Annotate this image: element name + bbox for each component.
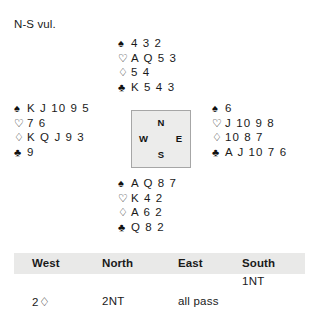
club-icon: ♣ bbox=[212, 145, 225, 160]
club-icon: ♣ bbox=[14, 145, 27, 160]
auction-bid-west: 2♢ bbox=[32, 295, 50, 309]
hand-south-hearts-row: ♡ K 4 2 bbox=[118, 191, 177, 206]
hand-west-hearts-row: ♡ 7 6 bbox=[14, 116, 90, 131]
spade-icon: ♠ bbox=[118, 176, 131, 191]
hand-north-hearts-row: ♡ A Q 5 3 bbox=[118, 51, 177, 66]
hand-south-diamonds: A 6 2 bbox=[131, 205, 163, 220]
compass-south-label: S bbox=[158, 150, 164, 160]
hand-north-spades-row: ♠ 4 3 2 bbox=[118, 36, 177, 51]
hand-east-clubs: A J 10 7 6 bbox=[225, 145, 287, 160]
hand-south-hearts: K 4 2 bbox=[131, 191, 163, 206]
hand-south-clubs: Q 8 2 bbox=[131, 220, 165, 235]
auction-row: 2♢ 2NT all pass bbox=[14, 295, 305, 312]
hand-north-diamonds-row: ♢ 5 4 bbox=[118, 65, 177, 80]
compass-north-label: N bbox=[158, 118, 165, 128]
hand-south-spades-row: ♠ A Q 8 7 bbox=[118, 176, 177, 191]
auction-header-west: West bbox=[32, 257, 60, 269]
auction-header-east: East bbox=[178, 257, 203, 269]
auction-bid-north: 2NT bbox=[102, 295, 125, 307]
hand-west-diamonds: K Q J 9 3 bbox=[27, 130, 85, 145]
heart-icon: ♡ bbox=[118, 51, 131, 66]
hand-north-diamonds: 5 4 bbox=[131, 65, 150, 80]
heart-icon: ♡ bbox=[212, 116, 225, 131]
hand-west-spades-row: ♠ K J 10 9 5 bbox=[14, 101, 90, 116]
hand-north-hearts: A Q 5 3 bbox=[131, 51, 177, 66]
hand-west-hearts: 7 6 bbox=[27, 116, 46, 131]
hand-north-spades: 4 3 2 bbox=[131, 36, 162, 51]
compass-box: N W E S bbox=[131, 110, 191, 168]
auction-bid-south: 1NT bbox=[242, 275, 265, 287]
vulnerability-label: N-S vul. bbox=[14, 18, 56, 30]
hand-east-hearts-row: ♡ J 10 9 8 bbox=[212, 116, 287, 131]
diamond-icon: ♢ bbox=[118, 65, 131, 80]
hand-east-spades: 6 bbox=[225, 101, 233, 116]
compass-east-label: E bbox=[176, 134, 182, 144]
hand-east-clubs-row: ♣ A J 10 7 6 bbox=[212, 145, 287, 160]
spade-icon: ♠ bbox=[212, 101, 225, 116]
hand-east-hearts: J 10 9 8 bbox=[225, 116, 275, 131]
hand-east-diamonds: 10 8 7 bbox=[225, 130, 264, 145]
club-icon: ♣ bbox=[118, 80, 131, 95]
diamond-icon: ♢ bbox=[14, 130, 27, 145]
bridge-deal-diagram: N-S vul. ♠ 4 3 2 ♡ A Q 5 3 ♢ 5 4 ♣ K 5 4… bbox=[0, 0, 318, 326]
hand-west-clubs-row: ♣ 9 bbox=[14, 145, 90, 160]
hand-south: ♠ A Q 8 7 ♡ K 4 2 ♢ A 6 2 ♣ Q 8 2 bbox=[118, 176, 177, 234]
auction-row: 1NT bbox=[14, 275, 305, 292]
heart-icon: ♡ bbox=[14, 116, 27, 131]
heart-icon: ♡ bbox=[118, 191, 131, 206]
spade-icon: ♠ bbox=[118, 36, 131, 51]
hand-west-spades: K J 10 9 5 bbox=[27, 101, 90, 116]
hand-west-diamonds-row: ♢ K Q J 9 3 bbox=[14, 130, 90, 145]
hand-west: ♠ K J 10 9 5 ♡ 7 6 ♢ K Q J 9 3 ♣ 9 bbox=[14, 101, 90, 159]
compass-west-label: W bbox=[139, 134, 148, 144]
spade-icon: ♠ bbox=[14, 101, 27, 116]
auction-table: West North East South 1NT 2♢ 2NT all pas… bbox=[14, 253, 305, 312]
hand-east-spades-row: ♠ 6 bbox=[212, 101, 287, 116]
hand-west-clubs: 9 bbox=[27, 145, 35, 160]
hand-south-spades: A Q 8 7 bbox=[131, 176, 177, 191]
hand-north: ♠ 4 3 2 ♡ A Q 5 3 ♢ 5 4 ♣ K 5 4 3 bbox=[118, 36, 177, 94]
auction-header-south: South bbox=[242, 257, 275, 269]
hand-south-clubs-row: ♣ Q 8 2 bbox=[118, 220, 177, 235]
hand-north-clubs: K 5 4 3 bbox=[131, 80, 175, 95]
auction-header-row: West North East South bbox=[14, 253, 305, 274]
hand-east-diamonds-row: ♢ 10 8 7 bbox=[212, 130, 287, 145]
diamond-icon: ♢ bbox=[212, 130, 225, 145]
club-icon: ♣ bbox=[118, 220, 131, 235]
auction-bid-east: all pass bbox=[178, 295, 219, 307]
auction-header-north: North bbox=[102, 257, 133, 269]
hand-south-diamonds-row: ♢ A 6 2 bbox=[118, 205, 177, 220]
diamond-icon: ♢ bbox=[118, 205, 131, 220]
hand-east: ♠ 6 ♡ J 10 9 8 ♢ 10 8 7 ♣ A J 10 7 6 bbox=[212, 101, 287, 159]
hand-north-clubs-row: ♣ K 5 4 3 bbox=[118, 80, 177, 95]
